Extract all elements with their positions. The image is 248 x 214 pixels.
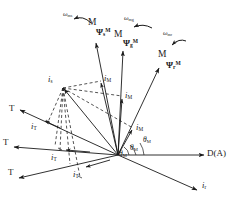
vector-diagram-figure: ωms ωmg ωmr M M M ΨsM ΨgM ΨrM is iM iM i… xyxy=(0,0,248,214)
theta-m-stator-label: θM xyxy=(119,150,127,159)
psi-s-label: ΨsM xyxy=(96,28,110,38)
psi-g-label: ΨgM xyxy=(123,39,138,49)
theta-m-rotor-label: θM xyxy=(143,136,151,145)
i-t-rotor-arrow xyxy=(86,160,110,167)
construction-line-8 xyxy=(63,88,70,164)
construction-line-1 xyxy=(63,81,101,88)
m-label-rotor: M xyxy=(158,50,166,60)
psi-r-label: ΨrM xyxy=(166,61,181,71)
diagram-canvas xyxy=(0,0,248,214)
i-s-label: is xyxy=(48,75,52,84)
i-t-airgap-label: iT xyxy=(51,153,57,162)
omega-mr-arc xyxy=(172,40,186,45)
construction-line-6 xyxy=(63,88,80,177)
i-r-label: ir xyxy=(202,181,206,190)
m-label-airgap: M xyxy=(114,30,122,40)
i-t-stator-label: iT xyxy=(31,122,37,131)
axis-d-a-label: D(A) xyxy=(207,149,226,158)
t-label-rotor: T xyxy=(8,168,14,177)
psi-r-vector xyxy=(118,68,159,155)
theta-m-arc-1 xyxy=(140,143,144,155)
omega-mg-label: ωmg xyxy=(124,15,134,22)
i-t-rotor-label: iT xyxy=(73,170,79,179)
i-m-airgap-label: iM xyxy=(125,91,132,100)
i-t-rotor-line xyxy=(19,155,118,178)
psi-s-vector xyxy=(96,43,118,155)
i-r-vector xyxy=(118,155,197,190)
i-m-stator-label: iM xyxy=(104,74,111,83)
construction-line-3 xyxy=(63,88,133,128)
construction-line-2 xyxy=(63,88,122,96)
omega-mr-label: ωmr xyxy=(163,30,172,37)
theta-m-airgap-label: θM xyxy=(130,144,138,153)
t-label-stator: T xyxy=(9,104,15,113)
i-m-rotor-label: iM xyxy=(136,123,143,132)
construction-line-5 xyxy=(60,88,63,150)
t-label-airgap: T xyxy=(3,138,9,147)
omega-mg-arc xyxy=(134,25,152,28)
omega-ms-label: ωms xyxy=(63,11,72,18)
